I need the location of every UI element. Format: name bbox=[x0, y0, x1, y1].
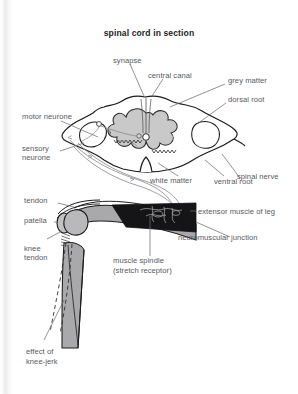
lower-leg-shape bbox=[62, 242, 84, 348]
label-central-canal: central canal bbox=[148, 71, 192, 80]
label-patella: patella bbox=[24, 216, 47, 225]
label-knee-line1: knee bbox=[24, 244, 41, 253]
sensory-cell-body bbox=[97, 122, 102, 127]
figure-page: spinal cord in section bbox=[0, 0, 298, 394]
synapse-marker bbox=[137, 134, 141, 138]
label-dorsal-root: dorsal root bbox=[228, 95, 264, 104]
label-sensory-neurone-line1: sensory bbox=[22, 144, 49, 153]
label-effect-line2: knee-jerk bbox=[26, 357, 58, 366]
label-muscle-spindle-line2: (stretch receptor) bbox=[113, 266, 172, 275]
white-matter-right-void bbox=[192, 122, 220, 149]
label-ventral-root: ventral root bbox=[214, 177, 253, 186]
label-neuromuscular-junction: neuromuscular junction bbox=[178, 233, 258, 242]
label-synapse: synapse bbox=[113, 56, 142, 65]
label-white-matter: white matter bbox=[150, 176, 192, 185]
label-effect-line1: effect of bbox=[26, 347, 53, 356]
label-grey-matter: grey matter bbox=[228, 76, 267, 85]
label-tendon: tendon bbox=[24, 196, 48, 205]
knee-joint-shape bbox=[64, 210, 88, 235]
label-knee-line2: tendon bbox=[24, 253, 48, 262]
label-motor-neurone: motor neurone bbox=[22, 112, 72, 121]
label-sensory-neurone-line2: neurone bbox=[22, 153, 50, 162]
label-muscle-spindle-line1: muscle spindle bbox=[113, 256, 164, 265]
neuromuscular-junction-block bbox=[112, 203, 196, 232]
label-extensor-muscle: extensor muscle of leg bbox=[198, 207, 275, 216]
